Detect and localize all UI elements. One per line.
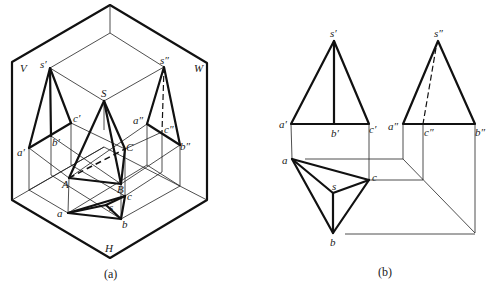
- label-s-prime: s′: [40, 58, 47, 70]
- plane-label-W: W: [194, 62, 204, 74]
- label-a-prime: a′: [279, 118, 288, 130]
- label-s-prime: s′: [330, 27, 337, 39]
- caption-b: (b): [378, 265, 392, 279]
- label-c-double: c″: [424, 126, 434, 138]
- panel-a-isometric: V W H s′ s″ S c′ b′ a′ a″ c″ b″ A B C a …: [12, 5, 207, 281]
- label-b-double: b″: [180, 140, 191, 152]
- top-view-triangle: [292, 159, 369, 233]
- label-a: a: [282, 154, 288, 166]
- label-A: A: [61, 178, 69, 190]
- label-b: b: [122, 218, 128, 230]
- label-C: C: [126, 141, 134, 153]
- front-view-triangle: [291, 41, 369, 124]
- pyramid-edge-SB: [104, 101, 121, 184]
- label-S: S: [101, 87, 107, 99]
- label-c-prime: c′: [73, 112, 81, 124]
- guide-line: [50, 33, 110, 68]
- label-s: s: [332, 180, 336, 192]
- label-s: s: [109, 201, 113, 213]
- projector: [291, 124, 292, 159]
- caption-a: (a): [104, 267, 117, 281]
- guide-line: [110, 33, 164, 67]
- label-c: c: [372, 171, 377, 183]
- label-b-prime: b′: [52, 136, 61, 148]
- guide-line: [12, 147, 104, 200]
- guide-line: [147, 165, 180, 186]
- guide-line: [29, 148, 69, 178]
- label-c: c: [127, 190, 132, 202]
- label-s-double: s″: [160, 54, 169, 66]
- label-b: b: [330, 236, 336, 248]
- label-a: a: [57, 207, 63, 219]
- front-view-edge: [50, 68, 51, 136]
- label-c-double: c″: [164, 123, 174, 135]
- label-b-prime: b′: [331, 127, 340, 139]
- side-view-triangle: [403, 41, 475, 124]
- label-a-double: a″: [388, 120, 399, 132]
- miter-line-45deg: [403, 159, 475, 233]
- figure-canvas: V W H s′ s″ S c′ b′ a′ a″ c″ b″ A B C a …: [0, 0, 491, 288]
- label-s-double: s″: [434, 27, 443, 39]
- plane-label-H: H: [104, 242, 114, 254]
- pyramid-edge-SC: [104, 101, 125, 149]
- plane-label-V: V: [20, 62, 28, 74]
- label-b-double: b″: [475, 126, 486, 138]
- label-B: B: [117, 183, 124, 195]
- label-c-prime: c′: [369, 123, 377, 135]
- label-a-double: a″: [133, 114, 144, 126]
- panel-b-orthographic: s′ a′ b′ c′ s″ a″ c″ b″ a c s b (b): [279, 27, 486, 279]
- label-a-prime: a′: [17, 146, 26, 158]
- guide-line: [50, 68, 104, 101]
